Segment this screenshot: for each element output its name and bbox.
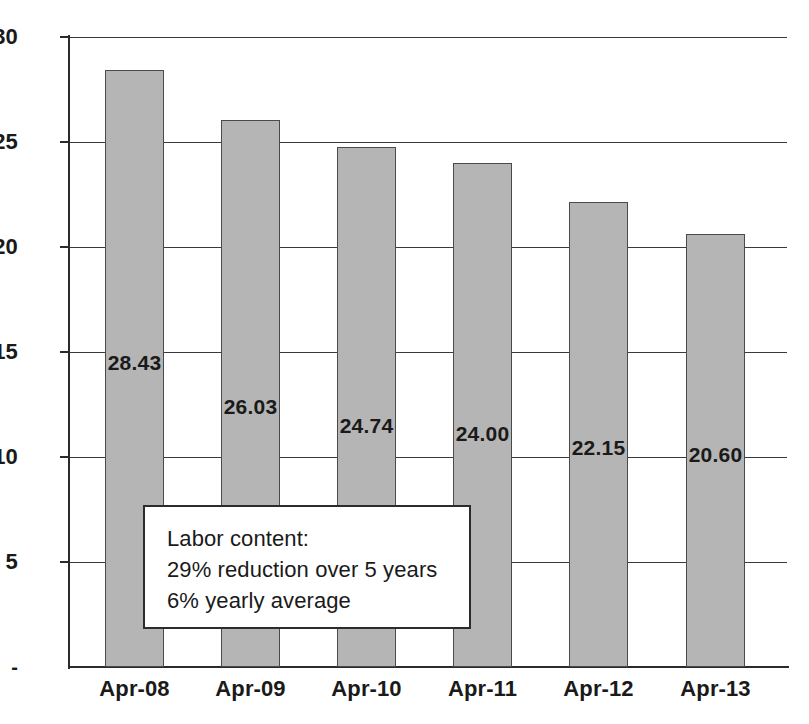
callout-line-2: 29% reduction over 5 years xyxy=(167,554,469,585)
y-tick-mark-10 xyxy=(60,456,69,458)
bar-value-label-Apr-11: 24.00 xyxy=(456,422,510,446)
bar-Apr-12 xyxy=(569,202,628,667)
y-tick-label-30: 30 xyxy=(0,24,18,50)
x-category-label-Apr-10: Apr-10 xyxy=(331,676,401,702)
gridline-10 xyxy=(68,457,787,458)
y-tick-label--: - xyxy=(0,656,18,679)
bar-value-label-Apr-13: 20.60 xyxy=(689,443,743,467)
bar-value-label-Apr-12: 22.15 xyxy=(572,436,626,460)
gridline-20 xyxy=(68,247,787,248)
y-tick-mark-30 xyxy=(60,36,69,38)
y-tick-mark-15 xyxy=(60,351,69,353)
y-tick-label-15: 15 xyxy=(0,339,18,365)
bar-chart: 30252015105- 28.4326.0324.7424.0022.1520… xyxy=(0,0,809,724)
gridline-30 xyxy=(68,37,787,38)
x-category-label-Apr-12: Apr-12 xyxy=(563,676,633,702)
callout-line-1: Labor content: xyxy=(167,523,469,554)
bar-value-label-Apr-08: 28.43 xyxy=(108,351,162,375)
y-tick-mark-5 xyxy=(60,561,69,563)
y-tick-label-25: 25 xyxy=(0,129,18,155)
x-axis-line xyxy=(68,666,789,668)
gridline-15 xyxy=(68,352,787,353)
callout-line-3: 6% yearly average xyxy=(167,585,469,616)
y-tick-mark-25 xyxy=(60,141,69,143)
y-tick-label-5: 5 xyxy=(0,549,18,575)
x-category-label-Apr-13: Apr-13 xyxy=(680,676,750,702)
bar-value-label-Apr-10: 24.74 xyxy=(340,414,394,438)
labor-content-callout: Labor content: 29% reduction over 5 year… xyxy=(143,505,471,629)
y-tick-label-10: 10 xyxy=(0,444,18,470)
y-tick-mark-20 xyxy=(60,246,69,248)
x-category-label-Apr-09: Apr-09 xyxy=(215,676,285,702)
x-category-label-Apr-11: Apr-11 xyxy=(448,676,517,702)
bar-value-label-Apr-09: 26.03 xyxy=(224,395,278,419)
x-category-label-Apr-08: Apr-08 xyxy=(99,676,169,702)
y-tick-label-20: 20 xyxy=(0,234,18,260)
gridline-25 xyxy=(68,142,787,143)
